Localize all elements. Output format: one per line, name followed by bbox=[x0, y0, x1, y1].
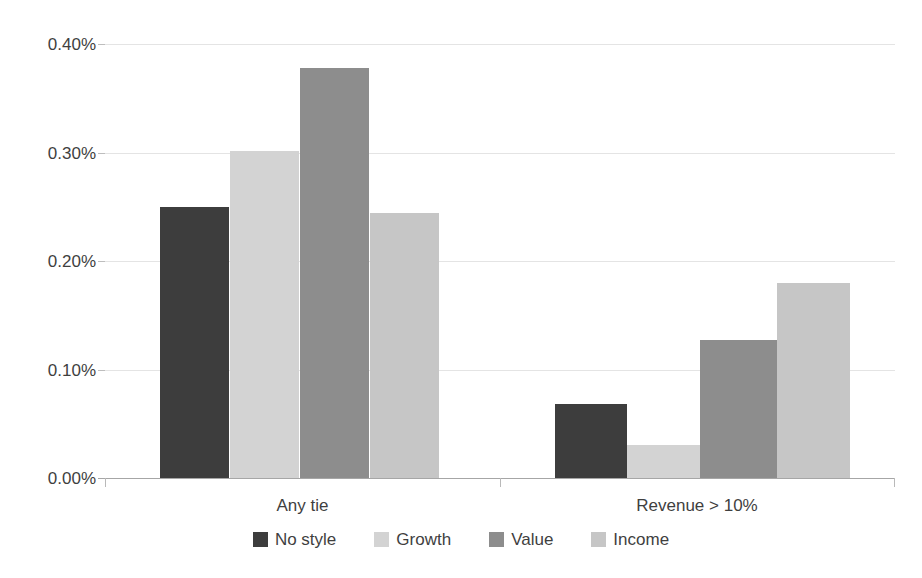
y-tick-mark-010 bbox=[98, 370, 105, 371]
bar-revenue-gt-10-growth[interactable] bbox=[627, 445, 700, 478]
legend-item-value[interactable]: Value bbox=[489, 531, 553, 548]
legend: No style Growth Value Income bbox=[0, 531, 922, 548]
y-tick-mark-000 bbox=[98, 478, 105, 479]
legend-item-income[interactable]: Income bbox=[591, 531, 669, 548]
bar-any-tie-no-style[interactable] bbox=[160, 207, 229, 478]
legend-swatch-income bbox=[591, 532, 606, 547]
bar-revenue-gt-10-income[interactable] bbox=[777, 283, 850, 478]
x-tick-label-revenue-gt-10: Revenue > 10% bbox=[500, 497, 894, 514]
legend-swatch-growth bbox=[374, 532, 389, 547]
bar-chart: 0.40% 0.30% 0.20% 0.10% 0.00% Any tie Re… bbox=[0, 0, 922, 578]
legend-swatch-no-style bbox=[253, 532, 268, 547]
legend-item-no-style[interactable]: No style bbox=[253, 531, 336, 548]
bar-any-tie-value[interactable] bbox=[300, 68, 369, 478]
gridline-030 bbox=[105, 153, 895, 154]
x-tick-label-any-tie: Any tie bbox=[105, 497, 500, 514]
bar-any-tie-growth[interactable] bbox=[230, 151, 299, 478]
legend-label-no-style: No style bbox=[275, 531, 336, 548]
y-tick-label-000: 0.00% bbox=[12, 470, 96, 487]
legend-item-growth[interactable]: Growth bbox=[374, 531, 451, 548]
y-tick-label-020: 0.20% bbox=[12, 253, 96, 270]
category-separator-mid bbox=[500, 478, 501, 487]
category-separator-right bbox=[894, 478, 895, 487]
y-tick-label-040: 0.40% bbox=[12, 36, 96, 53]
legend-label-value: Value bbox=[511, 531, 553, 548]
y-axis: 0.40% 0.30% 0.20% 0.10% 0.00% bbox=[0, 44, 96, 478]
plot-area bbox=[105, 44, 895, 478]
y-tick-mark-040 bbox=[98, 44, 105, 45]
bar-revenue-gt-10-no-style[interactable] bbox=[555, 404, 627, 478]
legend-label-growth: Growth bbox=[396, 531, 451, 548]
legend-label-income: Income bbox=[613, 531, 669, 548]
legend-swatch-value bbox=[489, 532, 504, 547]
category-separator-left bbox=[105, 478, 106, 487]
y-tick-label-010: 0.10% bbox=[12, 361, 96, 378]
y-tick-label-030: 0.30% bbox=[12, 144, 96, 161]
bar-revenue-gt-10-value[interactable] bbox=[700, 340, 777, 478]
y-tick-mark-020 bbox=[98, 261, 105, 262]
bar-any-tie-income[interactable] bbox=[370, 213, 439, 478]
y-tick-mark-030 bbox=[98, 153, 105, 154]
gridline-040 bbox=[105, 44, 895, 45]
